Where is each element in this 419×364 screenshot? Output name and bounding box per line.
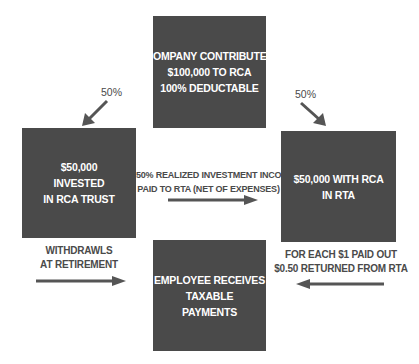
rta-return-line-1: FOR EACH $1 PAID OUT (270, 248, 412, 262)
arrow-right-icon (36, 275, 128, 287)
rta-return-line-2: $0.50 RETURNED FROM RTA (270, 262, 412, 276)
rca-trust-box: $50,000 INVESTED IN RCA TRUST (22, 128, 136, 238)
employee-line-3: PAYMENTS (182, 304, 237, 320)
rca-trust-line-3: IN RCA TRUST (43, 191, 114, 207)
arrow-down-left-icon (80, 98, 120, 138)
employee-line-2: TAXABLE (186, 288, 233, 304)
company-contributes-box: COMPANY CONTRIBUTES $100,000 TO RCA 100%… (153, 16, 266, 128)
arrow-left-icon (296, 278, 388, 290)
rta-line-1: $50,000 WITH RCA (293, 171, 383, 187)
rta-box: $50,000 WITH RCA IN RTA (281, 131, 396, 242)
company-to-rta-percent: 50% (295, 88, 316, 100)
rca-trust-line-1: $50,000 (61, 159, 98, 175)
company-to-trust-percent: 50% (101, 86, 122, 98)
rca-trust-line-2: INVESTED (54, 175, 105, 191)
employee-payments-box: EMPLOYEE RECEIVES TAXABLE PAYMENTS (153, 240, 266, 351)
withdrawals-line-1: WITHDRAWLS (22, 244, 136, 258)
trust-to-rta-line-1: 50% REALIZED INVESTMENT INCOME (136, 168, 281, 182)
company-box-line-2: $100,000 TO RCA (168, 64, 252, 80)
arrow-right-icon (168, 194, 260, 206)
rta-return-label: FOR EACH $1 PAID OUT $0.50 RETURNED FROM… (270, 248, 412, 276)
withdrawals-label: WITHDRAWLS AT RETIREMENT (22, 244, 136, 272)
arrow-down-right-icon (298, 100, 338, 140)
company-box-line-3: 100% DEDUCTABLE (160, 80, 258, 96)
trust-to-rta-label: 50% REALIZED INVESTMENT INCOME PAID TO R… (136, 168, 281, 196)
withdrawals-line-2: AT RETIREMENT (22, 258, 136, 272)
rta-line-2: IN RTA (322, 187, 355, 203)
company-box-line-1: COMPANY CONTRIBUTES (146, 48, 274, 64)
employee-line-1: EMPLOYEE RECEIVES (154, 272, 265, 288)
